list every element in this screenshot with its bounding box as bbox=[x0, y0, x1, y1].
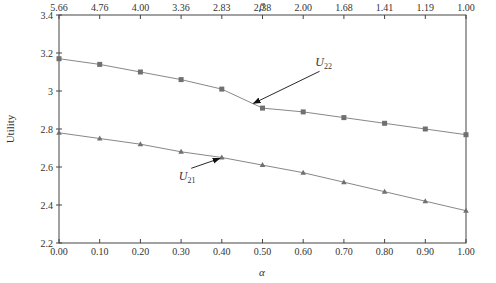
annotation-arrow bbox=[191, 158, 220, 168]
x-tick-label: 0.10 bbox=[91, 246, 109, 257]
x2-tick-label: 1.19 bbox=[417, 2, 435, 13]
y-tick-label: 3.2 bbox=[41, 48, 54, 59]
y-tick-label: 2.2 bbox=[41, 238, 54, 249]
square-marker bbox=[57, 56, 62, 61]
plot-frame bbox=[59, 15, 466, 243]
x2-tick-label: 1.68 bbox=[335, 2, 353, 13]
square-marker bbox=[423, 127, 428, 132]
annotation-label: U21 bbox=[179, 169, 196, 185]
x-tick-label: 0.80 bbox=[376, 246, 394, 257]
square-marker bbox=[382, 121, 387, 126]
line-chart: 0.000.100.200.300.400.500.600.700.800.90… bbox=[0, 0, 496, 283]
series-line bbox=[59, 133, 466, 211]
x-axis-title: α bbox=[259, 266, 265, 278]
x2-tick-label: 4.00 bbox=[132, 2, 150, 13]
x-axis-bottom: 0.000.100.200.300.400.500.600.700.800.90… bbox=[50, 239, 475, 257]
square-marker bbox=[219, 87, 224, 92]
annotations-layer: U22U21 bbox=[179, 55, 332, 185]
annotation-u21: U21 bbox=[179, 158, 220, 185]
y-tick-label: 3 bbox=[48, 86, 53, 97]
x2-tick-label: 3.36 bbox=[172, 2, 190, 13]
x-tick-label: 1.00 bbox=[457, 246, 475, 257]
square-marker bbox=[260, 106, 265, 111]
x-tick-label: 0.90 bbox=[417, 246, 435, 257]
x2-axis-title: β bbox=[258, 0, 265, 12]
annotation-u22: U22 bbox=[254, 55, 332, 103]
x-tick-label: 0.60 bbox=[294, 246, 312, 257]
x-tick-label: 0.70 bbox=[335, 246, 353, 257]
x-tick-label: 0.30 bbox=[172, 246, 190, 257]
series-u21 bbox=[56, 130, 469, 213]
square-marker bbox=[97, 62, 102, 67]
y-tick-label: 2.6 bbox=[41, 162, 54, 173]
x2-tick-label: 1.00 bbox=[457, 2, 475, 13]
square-marker bbox=[138, 70, 143, 75]
square-marker bbox=[464, 132, 469, 137]
annotation-label: U22 bbox=[315, 55, 332, 71]
x-tick-label: 0.20 bbox=[132, 246, 150, 257]
series-layer bbox=[56, 56, 469, 213]
y-tick-label: 2.4 bbox=[41, 200, 54, 211]
square-marker bbox=[301, 109, 306, 114]
series-line bbox=[59, 59, 466, 135]
x2-tick-label: 2.00 bbox=[294, 2, 312, 13]
x-tick-label: 0.40 bbox=[213, 246, 231, 257]
x-tick-label: 0.50 bbox=[254, 246, 272, 257]
annotation-arrow bbox=[254, 71, 320, 103]
x2-tick-label: 1.41 bbox=[376, 2, 394, 13]
y-tick-label: 3.4 bbox=[41, 10, 54, 21]
square-marker bbox=[179, 77, 184, 82]
plot-border bbox=[59, 15, 466, 243]
x2-tick-label: 2.83 bbox=[213, 2, 231, 13]
x2-tick-label: 4.76 bbox=[91, 2, 109, 13]
y-tick-label: 2.8 bbox=[41, 124, 54, 135]
series-u22 bbox=[57, 56, 469, 137]
triangle-marker bbox=[56, 130, 62, 135]
y-axis-title: Utility bbox=[4, 114, 16, 143]
square-marker bbox=[341, 115, 346, 120]
